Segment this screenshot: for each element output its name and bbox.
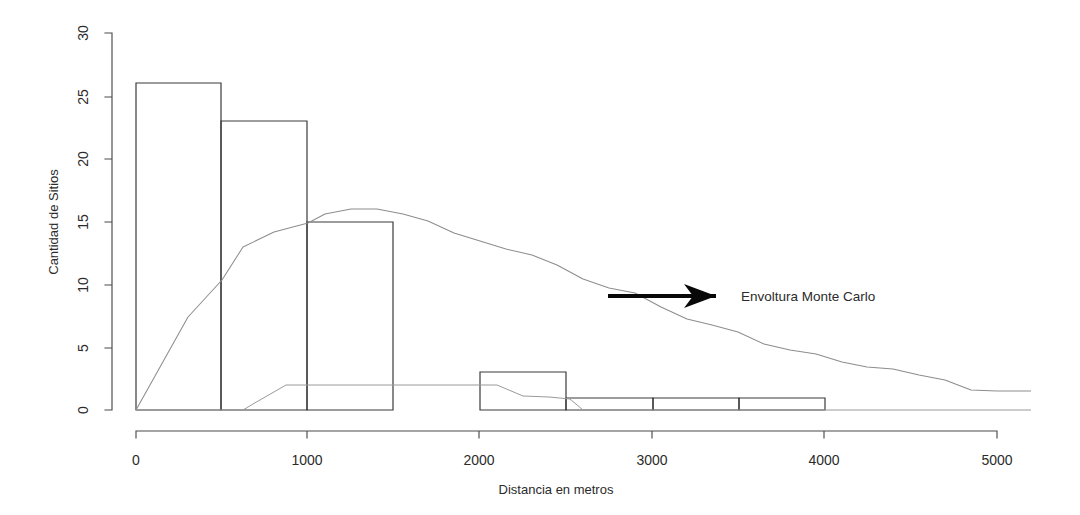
bar-2500-3000 bbox=[566, 398, 653, 410]
monte-carlo-upper-envelope bbox=[136, 209, 1031, 410]
y-tick-label-20: 20 bbox=[75, 151, 91, 167]
bar-500-1000 bbox=[221, 121, 307, 410]
x-axis: 0 1000 2000 3000 4000 5000 Distancia en … bbox=[132, 431, 1013, 497]
histogram-bars bbox=[136, 83, 825, 410]
bar-0-500 bbox=[136, 83, 221, 410]
y-tick-label-10: 10 bbox=[75, 277, 91, 293]
x-tick-label-5000: 5000 bbox=[981, 452, 1012, 468]
x-tick-label-3000: 3000 bbox=[636, 452, 667, 468]
y-tick-label-30: 30 bbox=[75, 25, 91, 41]
x-tick-label-1000: 1000 bbox=[291, 452, 322, 468]
monte-carlo-histogram-figure: 30 25 20 15 10 5 0 Cantidad de Sitios 0 bbox=[0, 0, 1080, 515]
y-tick-label-25: 25 bbox=[75, 89, 91, 105]
x-axis-line bbox=[136, 431, 997, 438]
x-axis-title: Distancia en metros bbox=[499, 482, 614, 497]
y-axis-title: Cantidad de Sitios bbox=[46, 169, 61, 275]
bar-2000-2500 bbox=[480, 372, 566, 410]
y-tick-label-5: 5 bbox=[75, 344, 91, 352]
x-tick-label-0: 0 bbox=[132, 452, 140, 468]
bar-3000-3500 bbox=[653, 398, 739, 410]
chart-canvas: 30 25 20 15 10 5 0 Cantidad de Sitios 0 bbox=[0, 0, 1080, 515]
y-tick-label-0: 0 bbox=[75, 406, 91, 414]
x-tick-label-4000: 4000 bbox=[808, 452, 839, 468]
y-axis: 30 25 20 15 10 5 0 Cantidad de Sitios bbox=[46, 25, 112, 414]
y-tick-label-15: 15 bbox=[75, 214, 91, 230]
bar-1000-1500 bbox=[307, 222, 393, 410]
y-axis-line bbox=[105, 33, 112, 410]
bar-3500-4000 bbox=[739, 398, 825, 410]
annotation-label: Envoltura Monte Carlo bbox=[741, 289, 875, 304]
envelope-annotation: Envoltura Monte Carlo bbox=[608, 284, 875, 308]
x-tick-label-2000: 2000 bbox=[463, 452, 494, 468]
